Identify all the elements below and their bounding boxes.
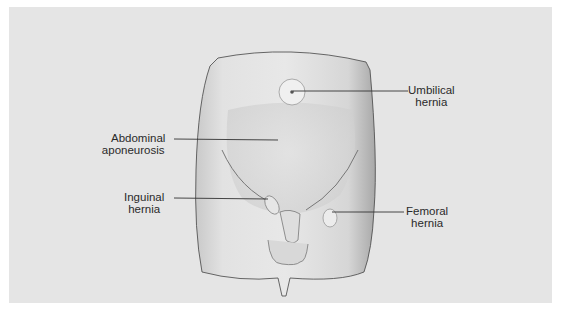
label-femoral-hernia: Femoral hernia: [406, 205, 448, 229]
label-line: Abdominal: [101, 132, 165, 144]
label-umbilical-hernia: Umbilical hernia: [408, 84, 455, 108]
label-line: hernia: [408, 96, 455, 108]
label-line: Umbilical: [408, 84, 455, 96]
label-line: Femoral: [406, 205, 448, 217]
label-line: Inguinal: [124, 191, 164, 203]
abdomen: [227, 103, 356, 215]
label-inguinal-hernia: Inguinal hernia: [124, 191, 164, 215]
label-line: hernia: [124, 203, 164, 215]
label-line: aponeurosis: [101, 144, 165, 156]
label-line: hernia: [406, 217, 448, 229]
torso-illustration: [0, 0, 562, 314]
label-abdominal-aponeurosis: Abdominal aponeurosis: [101, 132, 165, 156]
